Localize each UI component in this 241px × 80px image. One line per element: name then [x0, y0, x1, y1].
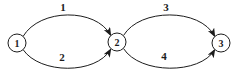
edge-1-to-2-bottom — [23, 50, 111, 69]
edge-4-label: 4 — [161, 50, 167, 62]
edge-1-label: 1 — [60, 1, 66, 13]
edge-2-to-3-top — [124, 15, 215, 36]
edge-3-label: 3 — [163, 1, 169, 13]
node-1-label: 1 — [15, 38, 20, 49]
node-3-label: 3 — [219, 38, 224, 49]
node-2-label: 2 — [115, 37, 120, 48]
graph-canvas: 1 2 3 1 2 3 4 — [0, 0, 241, 80]
edge-2-label: 2 — [59, 51, 65, 63]
edge-1-to-2-top — [23, 15, 111, 37]
graph-diagram: 1 2 3 1 2 3 4 — [0, 0, 241, 80]
edge-2-to-3-bottom — [124, 49, 215, 69]
